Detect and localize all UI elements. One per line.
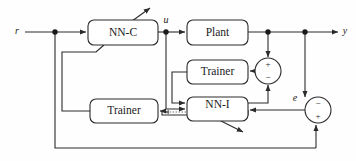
junction-dot-u-branch: [163, 29, 168, 34]
summing-junction-lower-bottom-sign: +: [315, 111, 320, 121]
block-nn-i-label: NN-I: [205, 98, 229, 110]
signal-label-e: e: [293, 92, 298, 103]
block-trainer-upper[interactable]: Trainer: [187, 60, 248, 84]
signal-label-u: u: [164, 14, 169, 25]
block-plant-label: Plant: [206, 26, 230, 38]
wire-nni-to-sum-upper: [248, 85, 268, 103]
block-diagram-canvas: NN-C Plant Trainer NN-I Trainer + − −: [0, 0, 356, 161]
junction-dot-r-branch: [52, 29, 57, 34]
wire-trainer-upper-to-nni: [172, 72, 187, 103]
summing-junction-lower[interactable]: − +: [305, 97, 331, 123]
summing-junction-lower-top-sign: −: [315, 98, 320, 108]
block-trainer-upper-label: Trainer: [201, 65, 235, 77]
signal-label-r: r: [15, 25, 19, 36]
wire-u-to-nni: [166, 32, 185, 109]
block-nn-c[interactable]: NN-C: [88, 20, 158, 45]
block-trainer-lower-label: Trainer: [107, 104, 141, 116]
block-plant[interactable]: Plant: [187, 20, 248, 45]
block-trainer-lower[interactable]: Trainer: [90, 99, 158, 123]
junction-dot-y-feedback-outer: [302, 29, 307, 34]
wire-r-bottom-rail: [55, 32, 316, 148]
block-diagram-svg: NN-C Plant Trainer NN-I Trainer + − −: [0, 0, 356, 161]
block-nn-c-label: NN-C: [109, 26, 137, 38]
summing-junction-upper[interactable]: + −: [255, 58, 281, 84]
junction-dot-y-feedback-inner: [265, 29, 270, 34]
summing-junction-upper-top-sign: +: [265, 59, 270, 69]
signal-label-y: y: [342, 25, 348, 36]
block-nn-i[interactable]: NN-I: [187, 97, 248, 121]
summing-junction-upper-bottom-sign: −: [265, 72, 270, 82]
